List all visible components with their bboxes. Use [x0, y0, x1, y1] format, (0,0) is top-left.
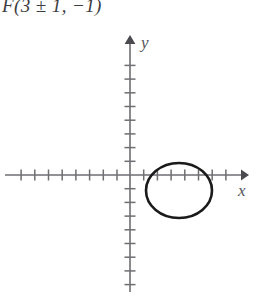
graph-figure: F(3 ± 1, −1) — [0, 0, 270, 297]
circle-curve — [146, 163, 212, 218]
y-axis-label: y — [139, 33, 149, 52]
x-axis-label: x — [237, 181, 246, 200]
y-axis-arrowhead — [125, 35, 136, 44]
coordinate-plane: x y — [0, 0, 270, 297]
x-axis-arrowhead — [241, 170, 249, 181]
